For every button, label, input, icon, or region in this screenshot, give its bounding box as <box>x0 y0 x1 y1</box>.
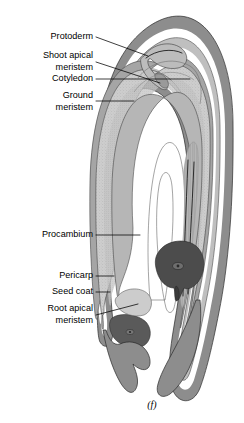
label-seed-coat: Seed coat <box>52 286 93 296</box>
label-pericarp: Pericarp <box>59 270 93 280</box>
labels-group: Protoderm Shoot apical meristem Cotyledo… <box>42 31 94 325</box>
label-cotyledon: Cotyledon <box>52 73 93 83</box>
seed-body-group <box>90 16 233 401</box>
label-ground-meristem-line1: Ground <box>63 90 93 100</box>
lower-radicle-dot <box>129 331 131 333</box>
label-root-apical-meristem-line1: Root apical <box>48 303 94 313</box>
seed-section-diagram: Protoderm Shoot apical meristem Cotyledo… <box>0 0 244 423</box>
label-shoot-apical-meristem-line2: meristem <box>56 62 93 72</box>
root-apical-meristem-pale-tip <box>115 289 151 316</box>
figure-container: Protoderm Shoot apical meristem Cotyledo… <box>0 0 244 423</box>
figure-caption: (f) <box>147 399 157 411</box>
quiescent-center-dot <box>177 265 180 268</box>
label-ground-meristem-line2: meristem <box>56 102 93 112</box>
label-root-apical-meristem-line2: meristem <box>56 315 93 325</box>
label-shoot-apical-meristem-line1: Shoot apical <box>43 50 93 60</box>
label-procambium: Procambium <box>42 229 93 239</box>
label-protoderm: Protoderm <box>51 31 93 41</box>
